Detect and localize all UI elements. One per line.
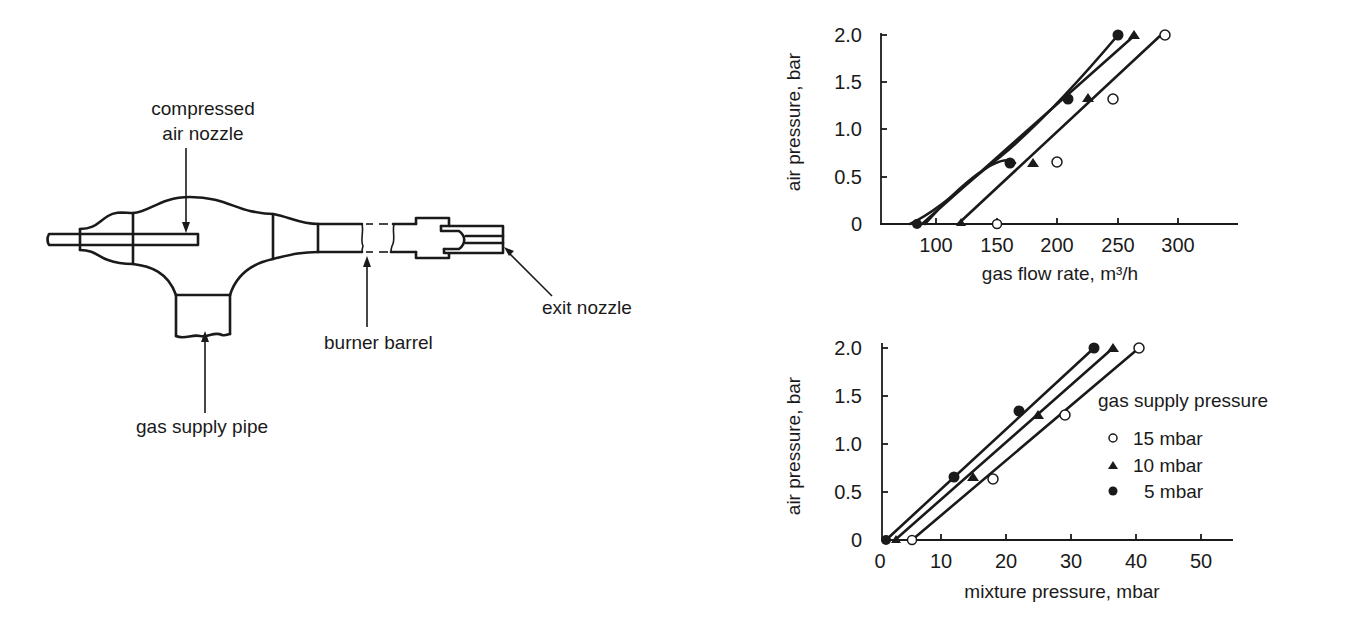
legend-entry-15mbar: 15 mbar: [1133, 428, 1203, 449]
burner-diagram: compressed air nozzle exit nozzle burner…: [48, 98, 632, 437]
y-ticks: [882, 348, 888, 492]
series-15mbar-line: [912, 348, 1139, 540]
series-5mbar-line: [886, 348, 1094, 540]
y-tick-label: 1.5: [834, 385, 862, 407]
series-5mbar-curve: [910, 35, 1118, 224]
y-axis-label: air pressure, bar: [783, 376, 804, 515]
x-tick-label: 250: [1101, 234, 1134, 256]
x-tick-label: 30: [1060, 550, 1082, 572]
series-10mbar-line: [895, 348, 1113, 540]
arrow-head-icon: [182, 222, 190, 233]
x-tick-label: 50: [1190, 550, 1212, 572]
series-10mbar-markers: [956, 30, 1140, 226]
x-tick-label: 20: [995, 550, 1017, 572]
label-air-nozzle: air nozzle: [162, 123, 243, 144]
series-15mbar-curve: [958, 35, 1161, 224]
chart-mixture-pressure: 2.0 1.5 1.0 0.5 0 0 10 20 30 40 50 mixtu…: [783, 337, 1268, 602]
series-15mbar-markers: [993, 30, 1171, 229]
x-tick-label: 0: [874, 550, 885, 572]
burner-barrel-callout: [363, 256, 371, 327]
x-tick-label: 150: [980, 234, 1013, 256]
compressed-air-pipe: [48, 234, 199, 245]
y-tick-label: 2.0: [834, 24, 862, 46]
legend: gas supply pressure 15 mbar 10 mbar 5 mb…: [1098, 390, 1268, 502]
label-exit-nozzle: exit nozzle: [542, 297, 632, 318]
label-gas-supply-pipe: gas supply pipe: [136, 416, 268, 437]
exit-nozzle-callout: [504, 247, 552, 296]
x-tick-label: 100: [919, 234, 952, 256]
x-axis-label: mixture pressure, mbar: [964, 581, 1160, 602]
gas-supply-callout: [201, 331, 209, 413]
filled-circle-icon: [1109, 487, 1118, 496]
burner-barrel-shape: [318, 224, 416, 252]
y-tick-label: 1.0: [834, 118, 862, 140]
triangle-icon: [1108, 461, 1118, 469]
series-5mbar-markers: [912, 30, 1124, 230]
x-tick-label: 40: [1125, 550, 1147, 572]
y-tick-label: 1.5: [834, 71, 862, 93]
legend-entry-10mbar: 10 mbar: [1133, 455, 1203, 476]
legend-entry-5mbar: 5 mbar: [1144, 481, 1204, 502]
y-tick-label: 0.5: [834, 481, 862, 503]
x-tick-label: 200: [1040, 234, 1073, 256]
arrow-head-icon: [504, 247, 514, 256]
legend-title: gas supply pressure: [1098, 390, 1268, 411]
label-compressed: compressed: [151, 98, 255, 119]
mixer-body-upper: [80, 197, 318, 229]
y-axis-label: air pressure, bar: [783, 52, 804, 191]
air-nozzle-callout: [182, 148, 190, 233]
open-circle-icon: [1109, 434, 1117, 442]
y-tick-label: 1.0: [834, 433, 862, 455]
x-tick-label: 300: [1161, 234, 1194, 256]
exit-nozzle-shape: [416, 218, 503, 258]
x-axis-label: gas flow rate, m³/h: [982, 263, 1138, 284]
y-ticks: [881, 35, 887, 177]
gas-supply-pipe-shape: [176, 295, 230, 337]
mixer-body-lower: [80, 250, 318, 295]
y-tick-label: 0: [851, 529, 862, 551]
x-tick-label: 10: [930, 550, 952, 572]
y-tick-label: 0: [851, 213, 862, 235]
y-tick-label: 2.0: [834, 337, 862, 359]
y-tick-label: 0.5: [834, 166, 862, 188]
label-burner-barrel: burner barrel: [324, 332, 433, 353]
chart-gas-flow: 2.0 1.5 1.0 0.5 0 100 150 200 250 300 ga…: [783, 24, 1238, 284]
arrow-head-icon: [363, 256, 371, 267]
series-10mbar-curve: [922, 35, 1135, 224]
